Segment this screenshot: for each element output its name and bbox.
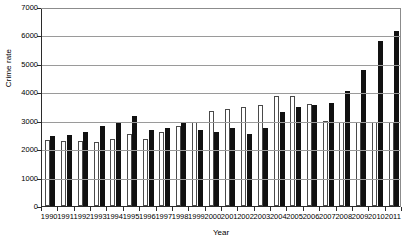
bar-group [255,8,271,206]
bar-group [189,8,205,206]
bar-group [238,8,254,206]
x-axis-tick-mark [90,207,91,211]
x-axis-tick-mark [303,207,304,211]
bar-series-b-1997 [165,128,170,206]
y-axis-tick-mark [37,179,41,180]
x-axis-tick-labels: 1990199119921993199419951996199719981999… [41,212,401,224]
bar-group [75,8,91,206]
bar-group [369,8,385,206]
bar-group [140,8,156,206]
bar-series-b-2003 [263,128,268,206]
bar-series-a-2003 [258,105,263,206]
bar-series-b-2011 [394,31,399,206]
y-axis-tick-label: 4000 [12,89,38,97]
x-axis-tick-mark [221,207,222,211]
x-axis-tick-mark [41,207,42,211]
bar-group [124,8,140,206]
plot-frame-top [41,8,401,9]
y-axis-tick-label: 1000 [12,175,38,183]
bar-series-a-1993 [94,142,99,206]
bar-series-b-1998 [181,122,186,206]
y-axis-tick-label: 2000 [12,146,38,154]
x-axis-tick-mark [237,207,238,211]
bar-series-b-2009 [361,70,366,206]
bar-series-b-1992 [83,132,88,206]
bar-group [58,8,74,206]
bar-series-b-2008 [345,91,350,206]
gridline [42,65,401,66]
bar-series-b-2004 [280,112,285,206]
bar-series-b-1996 [149,130,154,206]
y-axis-tick-label: 6000 [12,32,38,40]
bar-series-a-2001 [225,109,230,206]
plot-frame-right [400,8,401,207]
bar-series-a-1994 [110,139,115,206]
y-axis-tick-mark [37,150,41,151]
bar-series-b-1993 [100,126,105,206]
bar-group [157,8,173,206]
x-axis-tick-mark [188,207,189,211]
bar-group [91,8,107,206]
crime-rate-bar-chart: Crime rate 01000200030004000500060007000… [0,0,406,244]
y-axis-tick-label: 7000 [12,4,38,12]
x-axis-tick-mark [352,207,353,211]
y-axis-tick-label: 0 [12,203,38,211]
bar-series-a-2009 [356,122,361,206]
bar-series-b-1999 [198,130,203,206]
bar-series-b-2010 [378,41,383,206]
bar-series-b-1990 [50,136,55,206]
y-axis-tick-mark [37,93,41,94]
bar-series-a-2007 [323,121,328,206]
bar-series-a-1991 [61,141,66,206]
bar-series-a-1998 [176,126,181,206]
bar-group [320,8,336,206]
x-axis-tick-mark [205,207,206,211]
y-axis-tick-mark [37,122,41,123]
x-axis-tick-mark [336,207,337,211]
x-axis-tick-mark [270,207,271,211]
gridline [42,93,401,94]
bar-group [222,8,238,206]
bar-series-a-2010 [372,122,377,206]
x-axis-tick-mark [156,207,157,211]
y-axis-tick-mark [37,36,41,37]
bar-group [337,8,353,206]
x-axis-tick-mark [368,207,369,211]
bar-series-b-2006 [312,105,317,206]
y-axis-tick-mark [37,65,41,66]
bar-group [353,8,369,206]
x-axis-tick-mark [254,207,255,211]
x-axis-tick-mark [57,207,58,211]
x-axis-tick-mark [123,207,124,211]
x-axis-tick-mark [106,207,107,211]
gridline [42,122,401,123]
x-axis-tick-mark [319,207,320,211]
bar-series-a-2000 [209,111,214,206]
bar-group [287,8,303,206]
bar-series-a-1999 [192,122,197,206]
bar-group [206,8,222,206]
gridline [42,179,401,180]
bar-series-a-2006 [307,104,312,206]
x-axis-tick-label: 2011 [379,212,406,222]
x-axis-tick-mark [286,207,287,211]
bar-series-a-1997 [159,132,164,206]
bar-series-b-2007 [329,103,334,206]
bar-series-b-1991 [67,135,72,206]
bar-group [173,8,189,206]
x-axis-tick-mark [385,207,386,211]
bar-series-b-2001 [230,128,235,206]
bar-series-a-1995 [127,134,132,206]
bar-series-b-1994 [116,123,121,206]
x-axis-title: Year [41,227,401,238]
bar-series-b-2000 [214,132,219,206]
bar-series-a-2008 [339,122,344,206]
x-axis-tick-mark [172,207,173,211]
y-axis-tick-label: 5000 [12,61,38,69]
gridline [42,36,401,37]
bar-series-a-2004 [274,96,279,206]
y-axis-tick-label: 3000 [12,118,38,126]
gridline [42,150,401,151]
bars-layer [42,8,401,206]
bar-series-b-2002 [247,134,252,206]
